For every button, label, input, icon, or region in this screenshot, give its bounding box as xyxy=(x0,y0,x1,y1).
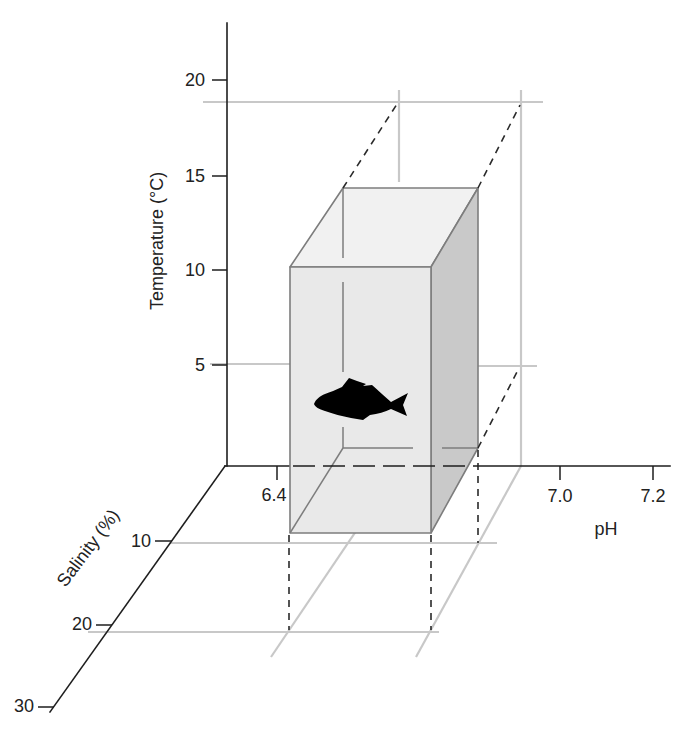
salinity-tick-label: 10 xyxy=(131,531,151,551)
projection-bottom-right xyxy=(478,368,519,448)
ph-tick-label: 6.4 xyxy=(261,485,286,505)
temperature-tick-label: 5 xyxy=(195,355,205,375)
salinity-ticks: 10 20 30 xyxy=(14,531,172,716)
salinity-axis xyxy=(50,466,225,712)
salinity-axis-label: Salinity (%) xyxy=(53,506,124,591)
projection-top-left xyxy=(343,104,397,188)
salinity-tick-label: 30 xyxy=(14,696,34,716)
salinity-tick-label: 20 xyxy=(72,614,92,634)
tolerance-box xyxy=(290,188,478,533)
ph-tick-label: 7.2 xyxy=(640,486,665,506)
ph-axis-label: pH xyxy=(594,519,617,539)
temperature-tick-label: 20 xyxy=(185,70,205,90)
temperature-axis-label: Temperature (°C) xyxy=(147,172,167,310)
temperature-tick-label: 10 xyxy=(185,260,205,280)
temperature-ticks: 20 15 10 5 xyxy=(185,70,227,375)
ph-tick-label: 7.0 xyxy=(547,486,572,506)
niche-diagram: 20 15 10 5 Temperature (°C) 6.4 7.0 7.2 … xyxy=(0,0,685,732)
projection-top-right xyxy=(478,105,520,188)
temperature-tick-label: 15 xyxy=(185,166,205,186)
